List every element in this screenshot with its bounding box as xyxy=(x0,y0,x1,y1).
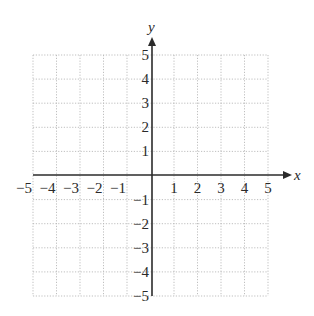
y-tick-label: −4 xyxy=(133,264,149,280)
y-tick-label: 3 xyxy=(142,95,150,111)
x-tick-label: 5 xyxy=(264,180,272,196)
x-tick-label: −1 xyxy=(110,180,126,196)
x-tick-label: −2 xyxy=(87,180,103,196)
x-tick-label: −4 xyxy=(40,180,56,196)
y-axis-arrow-icon xyxy=(148,37,156,46)
y-tick-label: −2 xyxy=(133,216,149,232)
y-tick-label: −5 xyxy=(133,288,149,304)
x-tick-label: 3 xyxy=(217,180,225,196)
axes xyxy=(33,37,292,296)
x-tick-label: −5 xyxy=(16,180,32,196)
y-tick-label: 2 xyxy=(142,119,150,135)
y-tick-label: 4 xyxy=(142,71,150,87)
y-tick-label: 5 xyxy=(142,47,150,63)
x-axis-arrow-icon xyxy=(283,171,292,179)
x-axis-label: x xyxy=(293,167,301,183)
coordinate-plane: −5−4−3−2−112345 −5−4−3−2−112345 x y xyxy=(0,0,314,316)
y-tick-label: −1 xyxy=(133,192,149,208)
x-tick-label: 2 xyxy=(194,180,202,196)
y-tick-label: 1 xyxy=(142,143,150,159)
x-tick-label: −3 xyxy=(63,180,79,196)
x-tick-label: 4 xyxy=(241,180,249,196)
y-tick-label: −3 xyxy=(133,240,149,256)
x-tick-label: 1 xyxy=(170,180,178,196)
y-axis-label: y xyxy=(146,19,155,35)
